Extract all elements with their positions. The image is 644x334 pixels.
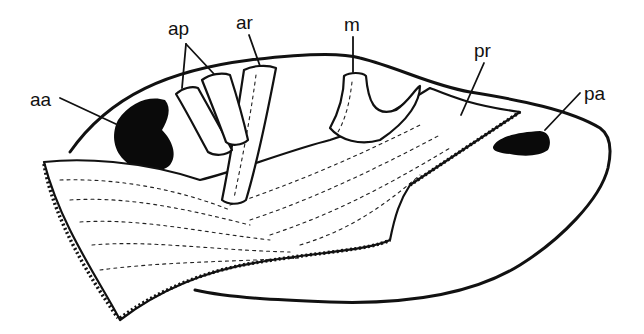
label-aa: aa (30, 89, 52, 110)
pa-leader (545, 93, 580, 130)
aa-opening (114, 98, 174, 171)
anatomical-figure: aa ap ar m pr pa (0, 0, 644, 334)
label-ap: ap (168, 18, 189, 39)
label-pr: pr (474, 40, 492, 61)
label-ar: ar (236, 12, 254, 33)
label-pa: pa (584, 83, 606, 104)
ap-leader-1 (182, 44, 186, 88)
pa-opening (493, 131, 550, 156)
label-m: m (344, 14, 360, 35)
